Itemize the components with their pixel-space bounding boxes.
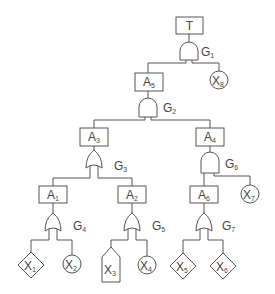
gate-G1-and[interactable]: G1	[180, 42, 214, 60]
event-X3[interactable]: X3	[102, 247, 120, 282]
top-event-label: T	[186, 19, 194, 33]
gate-G3-label: G3	[114, 159, 127, 173]
gate-G1-label: G1	[201, 45, 214, 59]
and-gate-icon	[201, 152, 219, 173]
event-X1[interactable]: X1	[18, 252, 44, 278]
or-gate-icon	[86, 150, 102, 168]
gate-G5-label: G5	[152, 219, 165, 233]
gate-G3-or[interactable]: G3	[86, 150, 127, 173]
event-A6[interactable]: A6	[190, 186, 218, 203]
event-A2[interactable]: A2	[118, 186, 146, 203]
gate-G4-or[interactable]: G4	[45, 213, 86, 233]
top-event-T[interactable]: T	[176, 17, 203, 34]
event-A1[interactable]: A1	[39, 186, 67, 203]
gate-G6-and[interactable]: G6	[201, 152, 238, 173]
fault-tree-diagram: T G1 G2 G3 G6 G4 G5 G7 A5 A3	[0, 0, 275, 294]
gate-G6-label: G6	[225, 157, 238, 171]
event-A4[interactable]: A4	[196, 128, 224, 146]
event-X6[interactable]: X6	[210, 253, 236, 279]
and-gate-icon	[180, 42, 198, 60]
or-gate-icon	[124, 213, 140, 231]
or-gate-icon	[196, 213, 212, 231]
event-X4[interactable]: X4	[138, 256, 156, 274]
event-X2[interactable]: X2	[63, 255, 81, 273]
event-X7[interactable]: X7	[241, 185, 259, 203]
or-gate-icon	[45, 213, 61, 231]
gate-G2-and[interactable]: G2	[139, 98, 176, 117]
gate-G4-label: G4	[73, 219, 86, 233]
gate-G5-or[interactable]: G5	[124, 213, 165, 233]
event-A5[interactable]: A5	[135, 73, 163, 91]
gate-G7-or[interactable]: G7	[196, 213, 235, 233]
event-X8[interactable]: X8	[210, 71, 228, 89]
gate-G7-label: G7	[222, 219, 235, 233]
gate-G2-label: G2	[163, 101, 176, 115]
and-gate-icon	[139, 98, 157, 117]
event-X5[interactable]: X5	[170, 253, 196, 279]
event-A3[interactable]: A3	[80, 128, 108, 146]
